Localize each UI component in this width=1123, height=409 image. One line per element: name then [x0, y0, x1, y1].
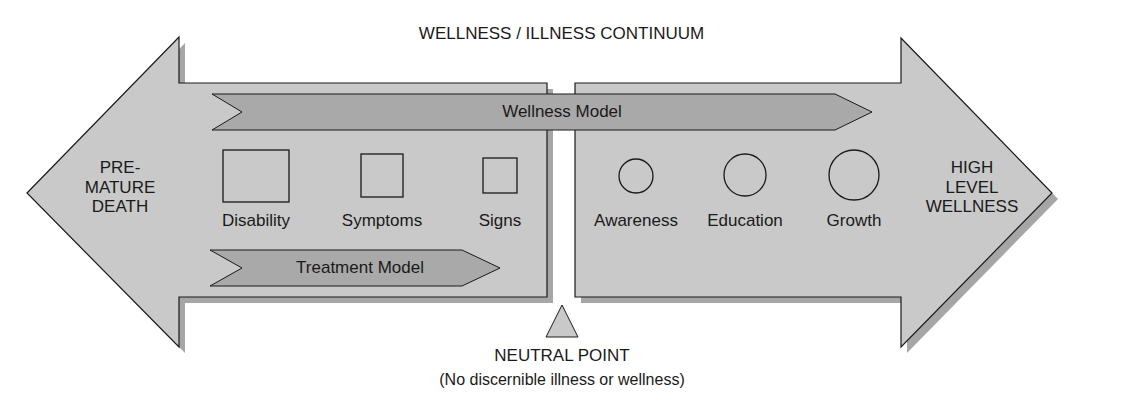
- high-level-wellness-line-1: HIGH: [912, 158, 1032, 178]
- high-level-wellness-label: HIGH LEVEL WELLNESS: [912, 158, 1032, 217]
- high-level-wellness-line-2: LEVEL: [912, 178, 1032, 198]
- premature-death-line-1: PRE-: [60, 158, 180, 178]
- high-level-wellness-line-3: WELLNESS: [912, 197, 1032, 217]
- signs-label: Signs: [470, 211, 530, 231]
- premature-death-line-3: DEATH: [60, 197, 180, 217]
- diagram-title: WELLNESS / ILLNESS CONTINUUM: [0, 24, 1123, 44]
- wellness-model-label: Wellness Model: [462, 102, 662, 122]
- awareness-label: Awareness: [586, 211, 686, 231]
- symptoms-label: Symptoms: [332, 211, 432, 231]
- disability-label: Disability: [206, 211, 306, 231]
- neutral-point-sublabel: (No discernible illness or wellness): [402, 371, 722, 389]
- premature-death-line-2: MATURE: [60, 178, 180, 198]
- neutral-point-triangle-icon: [546, 305, 578, 337]
- premature-death-label: PRE- MATURE DEATH: [60, 158, 180, 217]
- growth-label: Growth: [814, 211, 894, 231]
- neutral-point-label: NEUTRAL POINT: [462, 346, 662, 366]
- treatment-model-label: Treatment Model: [270, 258, 450, 278]
- education-label: Education: [695, 211, 795, 231]
